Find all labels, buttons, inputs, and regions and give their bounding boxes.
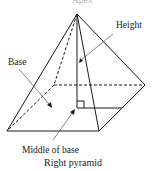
middle-of-base-label: Middle of base (22, 145, 79, 155)
apex-label: Apex (72, 0, 93, 5)
middle-of-base-leader (53, 112, 73, 140)
base-label: Base (8, 57, 26, 67)
base-leader (19, 69, 49, 104)
right-pyramid-diagram: Apex Height Base Middle of base Right py… (0, 0, 155, 171)
height-label: Height (116, 20, 142, 30)
edge-apex-to-front-right (77, 14, 99, 131)
hidden-edge-apex-to-back-left (54, 14, 77, 85)
diagram-title: Right pyramid (44, 157, 102, 168)
middle-of-base-arrowhead (70, 109, 75, 115)
right-angle-marker (77, 101, 84, 108)
edge-apex-to-front-left (7, 14, 77, 131)
